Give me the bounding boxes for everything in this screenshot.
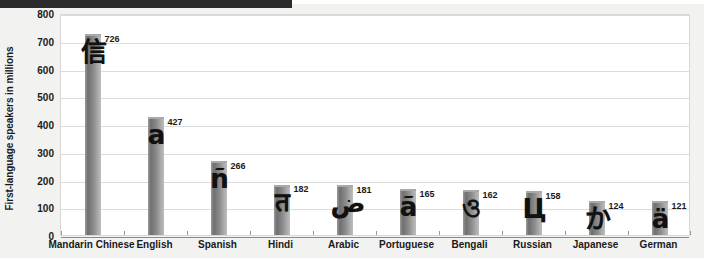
y-tick-label: 500 <box>37 92 54 103</box>
y-tick-label: 600 <box>37 64 54 75</box>
bar-group[interactable]: ض181 <box>337 15 353 235</box>
bar-value-label: 165 <box>420 189 435 199</box>
bar-group[interactable]: Ц158 <box>526 15 542 235</box>
y-tick-label: 200 <box>37 175 54 186</box>
chart-card: First-language speakers in millions 0100… <box>0 4 704 258</box>
bar-value-label: 182 <box>294 184 309 194</box>
bar-group[interactable]: a427 <box>148 15 164 235</box>
bar-value-label: 124 <box>609 201 624 211</box>
bar-value-label: 266 <box>231 161 246 171</box>
window-title-strip <box>0 0 292 8</box>
x-tick-label: German <box>640 239 678 250</box>
x-tickmark <box>690 231 691 235</box>
bar-group[interactable]: 信726 <box>85 15 101 235</box>
y-tick-label: 800 <box>37 9 54 20</box>
bar-value-label: 158 <box>546 191 561 201</box>
x-tick-label: Portuguese <box>379 239 434 250</box>
x-tick-label: Russian <box>513 239 552 250</box>
x-tickmark <box>376 231 377 235</box>
plot-area: 信726a427ñ266त182ض181ã165ও162Ц158か124ä121 <box>60 14 690 236</box>
y-axis-tick-labels: 0100200300400500600700800 <box>18 14 58 236</box>
bar-group[interactable]: ñ266 <box>211 15 227 235</box>
bar-group[interactable]: か124 <box>589 15 605 235</box>
x-tick-label: Hindi <box>268 239 293 250</box>
x-axis-tick-labels: Mandarin ChineseEnglishSpanishHindiArabi… <box>60 239 690 255</box>
x-tick-label: Arabic <box>328 239 359 250</box>
x-tickmark <box>61 231 62 235</box>
y-axis-title: First-language speakers in millions <box>2 18 18 238</box>
bar-group[interactable]: ও162 <box>463 15 479 235</box>
x-tickmark <box>187 231 188 235</box>
bar-value-label: 726 <box>105 34 120 44</box>
bar-group[interactable]: त182 <box>274 15 290 235</box>
x-tickmark <box>565 231 566 235</box>
bar-value-label: 121 <box>672 201 687 211</box>
x-tick-label: Bengali <box>451 239 487 250</box>
y-tick-label: 400 <box>37 120 54 131</box>
bar-value-label: 162 <box>483 190 498 200</box>
x-tick-label: English <box>136 239 172 250</box>
y-tick-label: 100 <box>37 203 54 214</box>
y-axis-title-text: First-language speakers in millions <box>5 46 16 210</box>
gridline-0 <box>61 237 689 238</box>
bar-group[interactable]: ã165 <box>400 15 416 235</box>
y-tick-label: 300 <box>37 147 54 158</box>
bar-value-label: 427 <box>168 117 183 127</box>
x-tick-label: Mandarin Chinese <box>48 239 134 250</box>
x-tickmark <box>439 231 440 235</box>
x-tick-label: Spanish <box>198 239 237 250</box>
bar-group[interactable]: ä121 <box>652 15 668 235</box>
y-tick-label: 700 <box>37 36 54 47</box>
x-tickmark <box>628 231 629 235</box>
x-tick-label: Japanese <box>573 239 619 250</box>
bar-value-label: 181 <box>357 185 372 195</box>
x-tickmark <box>502 231 503 235</box>
x-tickmark <box>124 231 125 235</box>
x-tickmark <box>313 231 314 235</box>
x-tickmark <box>250 231 251 235</box>
